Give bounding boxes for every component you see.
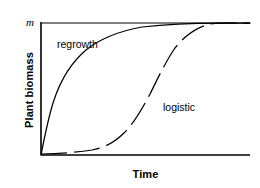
curve-label-regrowth: regrowth [57, 38, 98, 50]
x-axis-title: Time [41, 168, 250, 180]
asymptote-m-label: m [26, 16, 34, 28]
y-axis-title: Plant biomass [23, 30, 35, 150]
plot-area [0, 0, 260, 188]
curve-label-logistic: logistic [163, 101, 195, 113]
plant-biomass-figure: m regrowth logistic Plant biomass Time [0, 0, 260, 188]
